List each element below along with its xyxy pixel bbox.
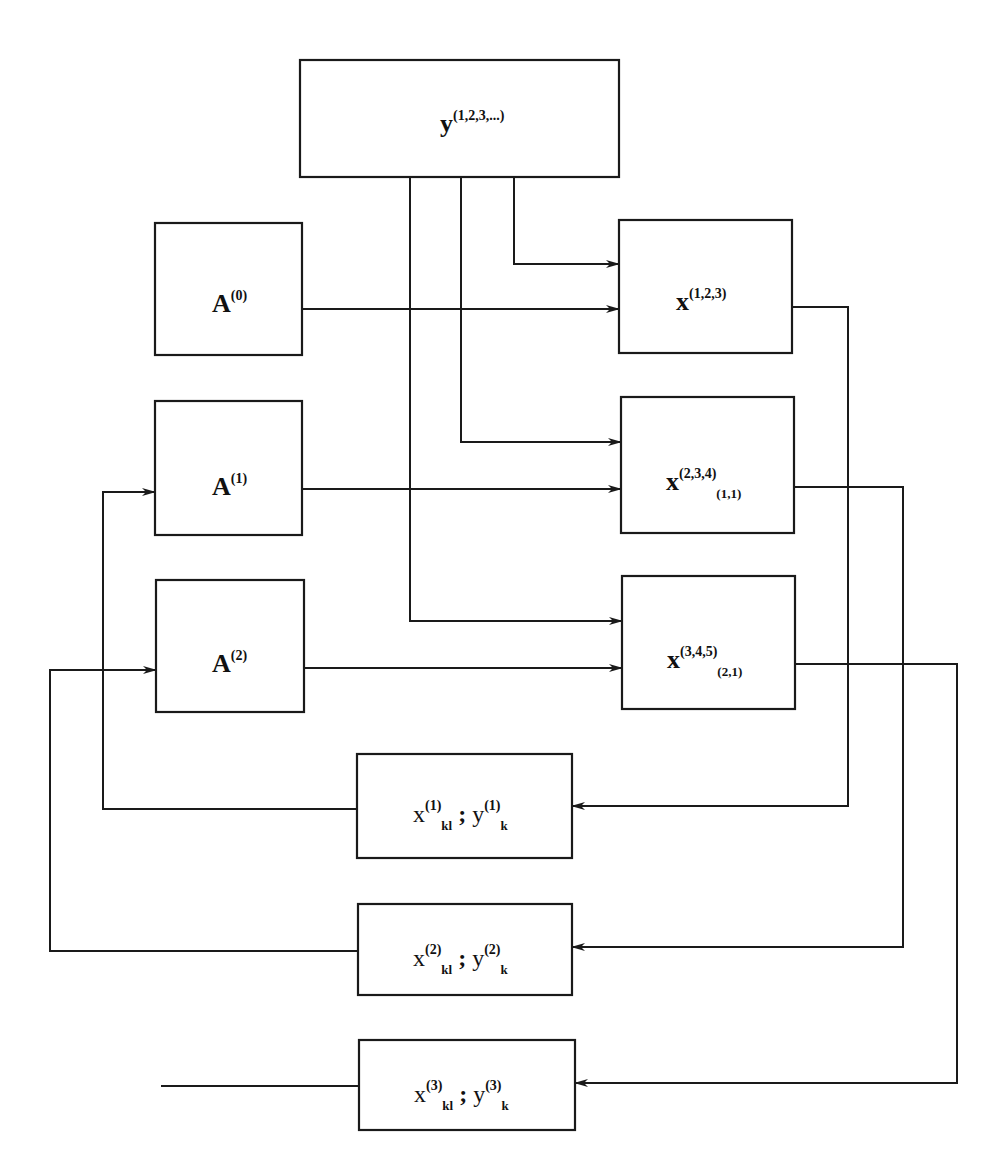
node-box [622, 576, 795, 709]
edge-x123-to-r1 [572, 307, 848, 806]
node-x345: x(3,4,5)(2,1) [622, 576, 795, 709]
node-box [155, 401, 302, 535]
node-x123: x(1,2,3) [619, 220, 792, 353]
node-y_all: y(1,2,3,...) [300, 60, 619, 177]
node-A1: A(1) [155, 401, 302, 535]
diagram-nodes: y(1,2,3,...)A(0)A(1)A(2)x(1,2,3)x(2,3,4)… [155, 60, 795, 1130]
node-A0: A(0) [155, 223, 302, 355]
node-A2: A(2) [156, 580, 304, 712]
node-r2: x(2)kl ; y(2)k [358, 904, 572, 995]
diagram-canvas: y(1,2,3,...)A(0)A(1)A(2)x(1,2,3)x(2,3,4)… [0, 0, 1003, 1167]
node-r1: x(1)kl ; y(1)k [357, 754, 572, 858]
edge-x345-to-r3 [575, 664, 957, 1083]
node-r3: x(3)kl ; y(3)k [359, 1040, 575, 1130]
edge-x234-to-r2 [572, 487, 903, 947]
node-x234: x(2,3,4)(1,1) [621, 397, 794, 533]
block-diagram: y(1,2,3,...)A(0)A(1)A(2)x(1,2,3)x(2,3,4)… [0, 0, 1003, 1167]
edge-y_all-to-x123 [514, 177, 619, 264]
edge-y_all-to-x345 [410, 177, 622, 621]
node-box [156, 580, 304, 712]
node-box [621, 397, 794, 533]
